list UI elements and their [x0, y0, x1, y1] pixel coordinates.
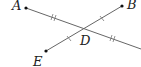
label-d: D	[80, 34, 90, 47]
label-a: A	[12, 0, 21, 12]
point-a	[24, 6, 27, 9]
label-b: B	[127, 0, 137, 11]
point-b	[120, 4, 123, 7]
label-e: E	[33, 55, 43, 67]
point-e	[44, 49, 47, 52]
